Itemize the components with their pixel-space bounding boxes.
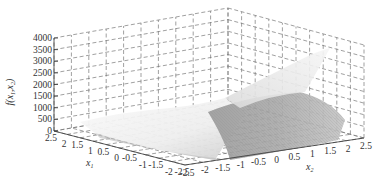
- svg-text:1000: 1000: [33, 103, 52, 113]
- svg-text:-0.5: -0.5: [122, 153, 137, 163]
- x1-axis-label: x1: [85, 157, 93, 169]
- svg-text:x1: x1: [85, 157, 93, 169]
- z-axis: 05001000150020002500300035004000: [33, 33, 58, 136]
- svg-text:2.5: 2.5: [45, 133, 57, 143]
- svg-text:-2: -2: [165, 167, 173, 177]
- svg-text:1: 1: [310, 149, 315, 159]
- svg-text:-1: -1: [139, 160, 147, 170]
- svg-text:3000: 3000: [33, 56, 52, 66]
- svg-text:500: 500: [38, 114, 53, 124]
- svg-text:4000: 4000: [33, 33, 52, 43]
- svg-text:-2.5: -2.5: [179, 168, 194, 178]
- svg-text:f(x1,x2): f(x1,x2): [4, 78, 16, 106]
- svg-text:-0.5: -0.5: [251, 157, 266, 167]
- svg-text:1500: 1500: [33, 91, 52, 101]
- surface-plot-3d: 05001000150020002500300035004000 2.521.5…: [0, 0, 391, 193]
- svg-text:-1: -1: [237, 160, 245, 170]
- x2-axis-label: x2: [305, 161, 313, 173]
- svg-text:2000: 2000: [33, 80, 52, 90]
- svg-text:-1.5: -1.5: [148, 160, 163, 170]
- svg-text:-2: -2: [201, 165, 209, 175]
- svg-text:-1.5: -1.5: [215, 163, 230, 173]
- svg-text:0.5: 0.5: [288, 152, 300, 162]
- svg-text:0.5: 0.5: [97, 147, 109, 157]
- surface: [80, 48, 345, 160]
- svg-text:0: 0: [274, 155, 279, 165]
- svg-text:2500: 2500: [33, 68, 52, 78]
- svg-text:1.5: 1.5: [71, 140, 83, 150]
- svg-text:1: 1: [88, 146, 93, 156]
- svg-text:2: 2: [62, 139, 67, 149]
- svg-text:1.5: 1.5: [324, 146, 336, 156]
- svg-text:2: 2: [346, 144, 351, 154]
- svg-text:0: 0: [114, 153, 119, 163]
- z-axis-label: f(x1,x2): [4, 78, 16, 106]
- svg-text:3500: 3500: [33, 45, 52, 55]
- svg-text:2.5: 2.5: [360, 141, 372, 151]
- svg-text:x2: x2: [305, 161, 313, 173]
